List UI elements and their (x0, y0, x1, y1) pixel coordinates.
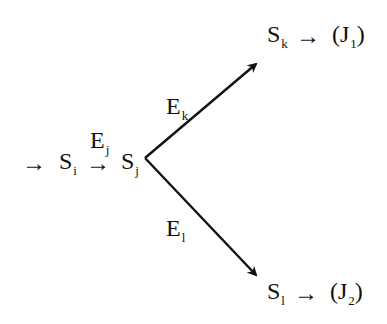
event-ej-label: Ej (90, 128, 109, 156)
entry-arrow: → (22, 151, 46, 175)
sl-to-j2-arrow: → (294, 281, 318, 305)
state-si: Si (59, 149, 77, 177)
outcome-j2: (J2) (330, 279, 363, 307)
edge-ek-arrow (145, 64, 256, 158)
event-ek-label: Ek (166, 94, 188, 122)
edge-el-arrow (145, 158, 256, 275)
state-sk: Sk (267, 22, 288, 50)
state-sl: Sl (267, 279, 285, 307)
sk-to-j1-arrow: → (296, 24, 320, 48)
outcome-j1: (J1) (332, 22, 365, 50)
state-sj: Sj (121, 149, 139, 177)
event-el-label: El (166, 216, 185, 244)
